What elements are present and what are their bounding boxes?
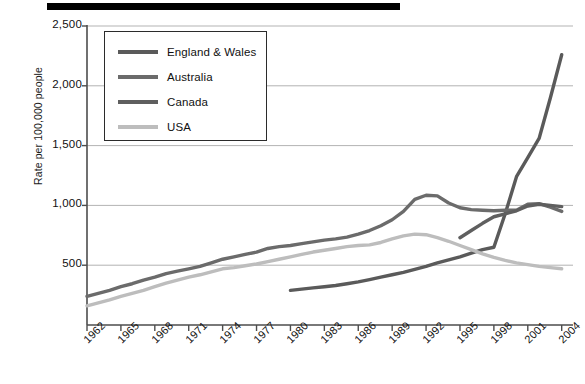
legend-swatch-australia bbox=[118, 75, 158, 79]
legend-item-australia: Australia bbox=[118, 68, 213, 86]
legend-swatch-usa bbox=[118, 125, 158, 129]
series-line-england-wales bbox=[290, 55, 561, 291]
series-line-usa bbox=[87, 234, 562, 306]
legend-swatch-england-wales bbox=[118, 50, 158, 54]
legend-label-canada: Canada bbox=[167, 96, 208, 108]
legend-label-australia: Australia bbox=[167, 71, 213, 83]
y-tick-label: 500 bbox=[4, 257, 82, 269]
legend-swatch-canada bbox=[118, 100, 158, 104]
legend-item-usa: USA bbox=[118, 118, 191, 136]
y-axis-title: Rate per 100,000 people bbox=[32, 26, 44, 226]
chart-container: 5001,0001,5002,0002,500 1962196519681971… bbox=[0, 0, 585, 384]
legend-label-usa: USA bbox=[167, 121, 191, 133]
legend: England & Wales Australia Canada USA bbox=[104, 31, 267, 141]
legend-item-england-wales: England & Wales bbox=[118, 43, 256, 61]
series-line-australia bbox=[87, 195, 562, 296]
legend-item-canada: Canada bbox=[118, 93, 208, 111]
legend-label-england-wales: England & Wales bbox=[167, 46, 256, 58]
